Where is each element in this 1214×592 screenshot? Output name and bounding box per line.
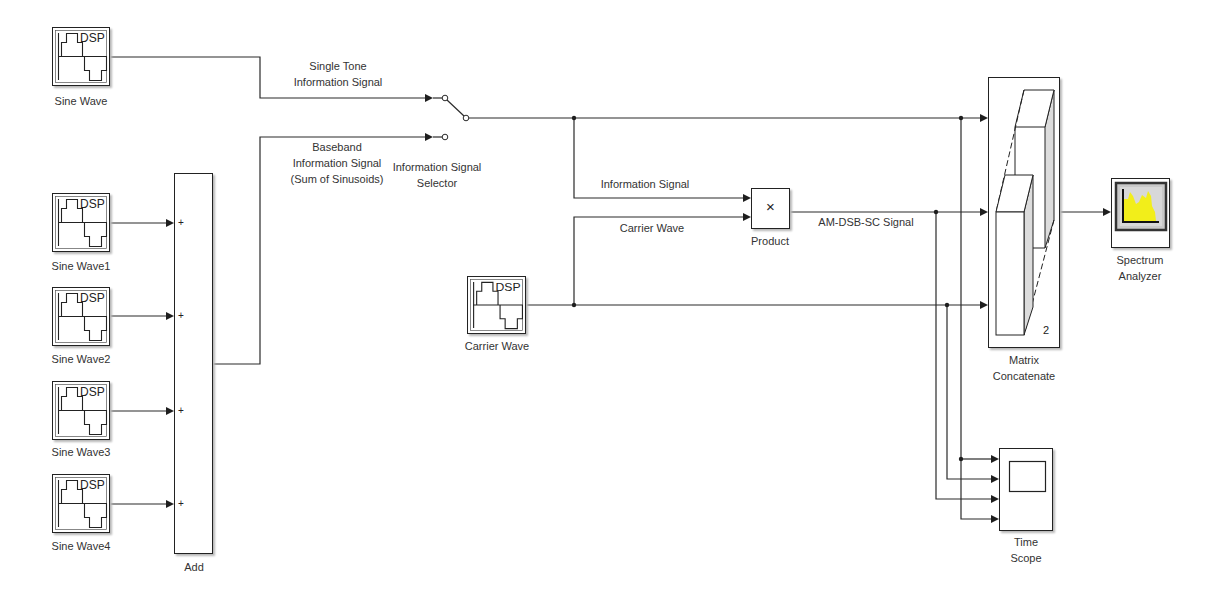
dsp-sine-icon: DSP [52, 381, 110, 440]
matrix-concatenate-label: Matrix Concatenate [964, 352, 1084, 384]
sine-wave2-block[interactable]: DSP [52, 287, 110, 346]
switch-graphic[interactable] [433, 95, 469, 140]
information-signal-wire-label: Information Signal [585, 176, 705, 192]
spectrum-analyzer-label: Spectrum Analyzer [1090, 252, 1190, 284]
wire-sine-wave2[interactable] [110, 312, 174, 320]
dsp-sine-icon: DSP [52, 287, 110, 346]
multiply-icon: × [751, 199, 790, 215]
add-port4-sign: + [178, 499, 184, 509]
carrier-wave-block-label: Carrier Wave [447, 338, 547, 354]
wire-concat-output[interactable] [1060, 208, 1111, 216]
add-port3-sign: + [178, 406, 184, 416]
matrix-concatenate-icon: 2 [988, 77, 1060, 348]
svg-text:DSP: DSP [80, 291, 105, 305]
sine-wave3-block[interactable]: DSP [52, 381, 110, 440]
dsp-sine-icon: DSP [467, 276, 526, 334]
svg-text:DSP: DSP [80, 478, 105, 492]
wire-information-signal[interactable] [469, 114, 999, 523]
dsp-sine-icon: DSP [52, 27, 110, 86]
scope-icon [999, 448, 1053, 531]
svg-text:DSP: DSP [80, 31, 105, 45]
wire-sine-wave3[interactable] [110, 407, 174, 415]
add-block-frame [174, 173, 213, 554]
dsp-sine-icon: DSP [52, 193, 110, 252]
sine-wave-block[interactable]: DSP [52, 27, 110, 86]
information-signal-selector-label: Information Signal Selector [372, 159, 502, 191]
spectrum-analyzer-icon [1111, 178, 1170, 248]
svg-text:DSP: DSP [80, 385, 105, 399]
wire-sine-wave1[interactable] [110, 219, 174, 227]
sine-wave-label: Sine Wave [31, 93, 131, 109]
dsp-sine-icon: DSP [52, 474, 110, 533]
sine-wave1-block[interactable]: DSP [52, 193, 110, 252]
product-label: Product [735, 233, 805, 249]
add-label: Add [164, 559, 224, 575]
add-block[interactable]: + + + + [174, 173, 213, 554]
svg-text:DSP: DSP [495, 280, 520, 294]
svg-text:DSP: DSP [80, 197, 105, 211]
time-scope-block[interactable] [999, 448, 1053, 531]
matrix-concatenate-block[interactable]: 2 [988, 77, 1060, 348]
simulink-model-canvas: DSP Sine Wave DSP Sine Wave1 DSP Sine Wa… [0, 0, 1214, 592]
sine-wave1-label: Sine Wave1 [31, 258, 131, 274]
sine-wave4-label: Sine Wave4 [31, 538, 131, 554]
single-tone-signal-label: Single Tone Information Signal [268, 58, 408, 90]
add-port1-sign: + [178, 218, 184, 228]
wire-sine-wave4[interactable] [110, 500, 174, 508]
svg-text:2: 2 [1043, 324, 1049, 336]
sine-wave4-block[interactable]: DSP [52, 474, 110, 533]
add-port2-sign: + [178, 311, 184, 321]
time-scope-label: Time Scope [976, 534, 1076, 566]
wire-carrier-wave[interactable] [526, 213, 999, 483]
sine-wave2-label: Sine Wave2 [31, 351, 131, 367]
carrier-wave-wire-label: Carrier Wave [602, 220, 702, 236]
am-dsb-sc-signal-label: AM-DSB-SC Signal [806, 214, 926, 230]
sine-wave3-label: Sine Wave3 [31, 444, 131, 460]
spectrum-analyzer-block[interactable] [1111, 178, 1170, 248]
carrier-wave-block[interactable]: DSP [467, 276, 526, 334]
product-block[interactable]: × [751, 188, 790, 229]
